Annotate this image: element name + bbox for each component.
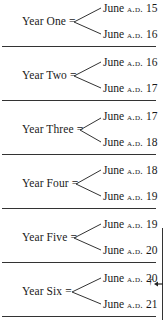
start-date: June a.d. 15 <box>103 2 157 14</box>
year-label: Year Three = <box>22 123 83 135</box>
end-date: June a.d. 18 <box>103 136 157 148</box>
start-date: June a.d. 17 <box>103 110 157 122</box>
row-divider <box>2 262 156 263</box>
start-date: June a.d. 16 <box>103 56 157 68</box>
year-label: Year Six = <box>22 285 72 297</box>
row-divider <box>2 316 156 317</box>
start-date: June a.d. 19 <box>103 218 157 230</box>
end-date: June a.d. 20 <box>103 244 157 256</box>
row-divider <box>2 208 156 209</box>
end-date: June a.d. 19 <box>103 190 157 202</box>
left-arrow-icon <box>154 280 164 288</box>
row-divider <box>2 154 156 155</box>
year-label: Year Two = <box>22 69 77 81</box>
dagger-marker: † <box>148 275 153 286</box>
end-date: June a.d. 17 <box>103 82 157 94</box>
year-label: Year Four = <box>22 177 78 189</box>
year-label: Year One = <box>22 15 76 27</box>
start-date: June a.d. 18 <box>103 164 157 176</box>
end-date: June a.d. 21 <box>103 298 157 310</box>
year-label: Year Five = <box>22 231 77 243</box>
end-date: June a.d. 16 <box>103 28 157 40</box>
row-divider <box>2 46 156 47</box>
row-divider <box>2 100 156 101</box>
bracket-line <box>162 228 163 320</box>
